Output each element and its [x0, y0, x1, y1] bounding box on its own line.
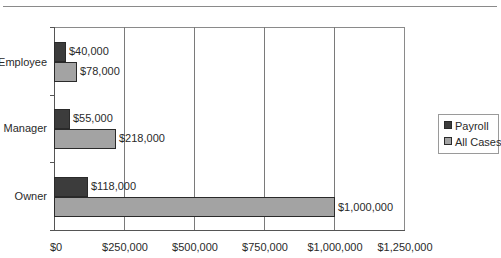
- x-tick-label: $1,250,000: [377, 241, 432, 253]
- bar-employee-payroll: [54, 42, 66, 62]
- category-label-manager: Manager: [4, 122, 47, 134]
- top-rule: [3, 6, 497, 7]
- legend-label: Payroll: [455, 120, 489, 132]
- legend-swatch-icon: [444, 137, 452, 145]
- value-label: $118,000: [91, 180, 136, 192]
- category-label-owner: Owner: [15, 190, 47, 202]
- y-tick: [50, 27, 54, 28]
- bar-owner-all-cases: [54, 197, 335, 217]
- value-label: $40,000: [69, 45, 109, 57]
- value-label: $218,000: [119, 132, 165, 144]
- x-tick-label: $250,000: [102, 241, 148, 253]
- value-label: $78,000: [80, 65, 120, 77]
- bar-owner-payroll: [54, 177, 88, 197]
- y-tick: [50, 95, 54, 96]
- bar-manager-payroll: [54, 109, 70, 129]
- value-label: $55,000: [73, 112, 113, 124]
- legend-item-payroll: Payroll: [444, 120, 489, 132]
- x-tick-label: $1,000,000: [307, 241, 362, 253]
- x-axis: [54, 230, 405, 231]
- category-label-employee: Employee: [0, 56, 47, 68]
- legend: Payroll All Cases: [438, 114, 499, 154]
- legend-label: All Cases: [455, 136, 501, 148]
- bar-employee-all-cases: [54, 62, 77, 82]
- y-tick: [50, 230, 54, 231]
- x-tick-label: $500,000: [172, 241, 218, 253]
- legend-item-all-cases: All Cases: [444, 136, 501, 148]
- bar-manager-all-cases: [54, 129, 116, 149]
- x-tick-label: $750,000: [242, 241, 288, 253]
- x-tick-label: $0: [50, 241, 62, 253]
- legend-swatch-icon: [444, 121, 452, 129]
- y-tick: [50, 162, 54, 163]
- value-label: $1,000,000: [338, 201, 393, 213]
